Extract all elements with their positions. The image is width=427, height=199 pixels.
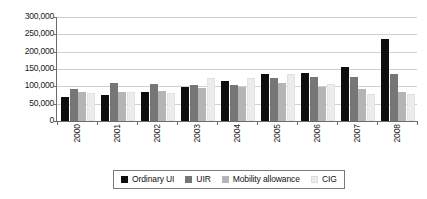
plot-area (56, 17, 417, 122)
bar-groups (57, 17, 417, 121)
bar (390, 74, 398, 121)
legend-label: UIR (196, 175, 210, 184)
legend-item: UIR (185, 175, 210, 184)
bar-group (377, 17, 417, 121)
x-axis-tick (417, 121, 418, 125)
y-axis-tick-label: 0 (0, 116, 54, 125)
y-axis-tick-label: 50,000 (0, 99, 54, 108)
bar (78, 92, 86, 121)
y-axis-tick-label: 150,000 (0, 64, 54, 73)
bar (207, 78, 215, 121)
bar-group (177, 17, 217, 121)
x-axis-tick-label: 2003 (192, 124, 202, 143)
bar-chart: 050,000100,000150,000200,000250,000300,0… (0, 0, 427, 199)
bar (278, 83, 286, 121)
bar (127, 92, 135, 121)
bar (287, 74, 295, 121)
x-axis-tick-label: 2001 (112, 124, 122, 143)
legend-label: Mobility allowance (233, 175, 300, 184)
bar (398, 92, 406, 121)
bar (230, 85, 238, 121)
legend-swatch-icon (121, 176, 128, 183)
bar (318, 87, 326, 121)
bar (150, 84, 158, 121)
bar (110, 83, 118, 121)
y-axis-tick-label: 300,000 (0, 12, 54, 21)
bar (238, 87, 246, 121)
bar (198, 88, 206, 121)
bar-group (57, 17, 97, 121)
x-axis-tick-label: 2004 (232, 124, 242, 143)
legend-swatch-icon (185, 176, 192, 183)
bar (190, 85, 198, 121)
bar (118, 92, 126, 121)
x-axis-tick-label: 2005 (272, 124, 282, 143)
bar (381, 39, 389, 121)
bar (367, 94, 375, 121)
bar (101, 95, 109, 121)
x-axis-tick-label: 2006 (312, 124, 322, 143)
legend-item: CIG (311, 175, 337, 184)
bar (247, 78, 255, 121)
bar (341, 67, 349, 121)
bar (350, 77, 358, 121)
y-axis-tick-label: 250,000 (0, 29, 54, 38)
chart-legend: Ordinary UIUIRMobility allowanceCIG (113, 170, 345, 189)
bar (181, 87, 189, 121)
bar (261, 74, 269, 121)
bar-group (217, 17, 257, 121)
legend-item: Ordinary UI (121, 175, 174, 184)
bar (407, 94, 415, 121)
bar (61, 97, 69, 121)
bar (221, 81, 229, 121)
y-axis-labels: 050,000100,000150,000200,000250,000300,0… (0, 0, 54, 199)
y-axis-tick-label: 100,000 (0, 81, 54, 90)
bar-group (297, 17, 337, 121)
bar (327, 84, 335, 121)
bar-group (337, 17, 377, 121)
bar (167, 93, 175, 121)
bar (270, 78, 278, 121)
legend-item: Mobility allowance (222, 175, 300, 184)
x-axis-tick-label: 2000 (72, 124, 82, 143)
legend-label: CIG (322, 175, 337, 184)
bar (70, 89, 78, 121)
y-axis-tick-label: 200,000 (0, 47, 54, 56)
bar (158, 91, 166, 122)
x-axis-tick-label: 2008 (392, 124, 402, 143)
bar-group (97, 17, 137, 121)
bar (87, 93, 95, 121)
bar (301, 73, 309, 121)
x-axis-tick-label: 2007 (352, 124, 362, 143)
legend-swatch-icon (222, 176, 229, 183)
bar-group (137, 17, 177, 121)
bar (141, 92, 149, 121)
x-axis-tick-label: 2002 (152, 124, 162, 143)
x-axis-labels: 200020012002200320042005200620072008 (56, 124, 416, 168)
legend-label: Ordinary UI (132, 175, 174, 184)
legend-swatch-icon (311, 176, 318, 183)
bar (310, 77, 318, 121)
bar (358, 89, 366, 121)
bar-group (257, 17, 297, 121)
